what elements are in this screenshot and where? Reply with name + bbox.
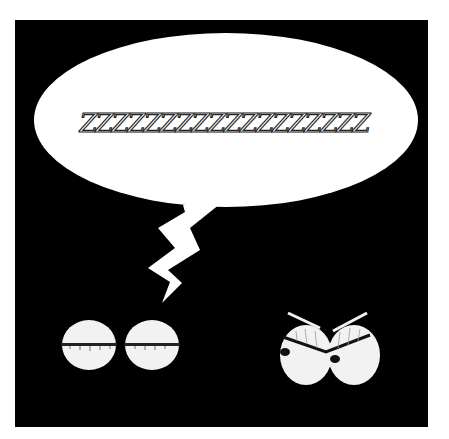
speech-bubble-text: ZZZZZZZZZZZZZZZZZZ [78,108,371,138]
closed-eyes [61,320,180,370]
speech-bubble [34,33,418,303]
angry-eyes [280,313,380,385]
illustration: ZZZZZZZZZZZZZZZZZZ [0,0,449,439]
